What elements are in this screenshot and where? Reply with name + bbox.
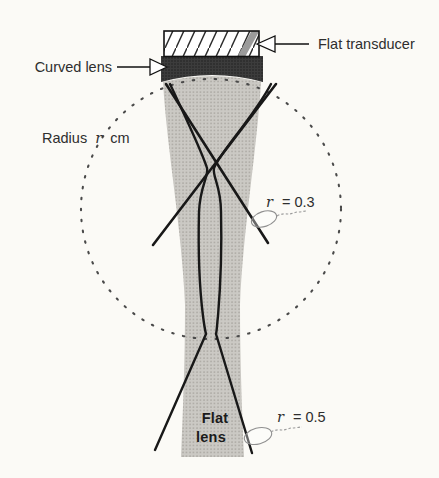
r03-label: r = 0.3 [266,194,315,210]
r05-label-value: = 0.5 [293,409,326,425]
flat-transducer-shape [164,30,259,57]
flat-lens-label-line1: Flat [202,410,229,426]
flat-lens-label-line2: lens [196,429,226,445]
r05-label-var: r [277,409,285,425]
r05-label: r = 0.5 [277,409,326,425]
radius-label: Radius r cm [42,130,129,146]
r03-label-value: = 0.3 [282,194,315,210]
flat-transducer-label: Flat transducer [318,36,415,52]
beam-diagram-canvas: Curved lens Flat transducer Radius r cm … [0,0,439,478]
r03-label-var: r [266,194,274,210]
beam-diagram: Curved lens Flat transducer Radius r cm … [0,0,439,478]
radius-label-prefix: Radius [42,130,87,146]
radius-label-unit: cm [110,130,129,146]
radius-label-var: r [95,130,103,146]
curved-lens-label: Curved lens [35,59,112,75]
